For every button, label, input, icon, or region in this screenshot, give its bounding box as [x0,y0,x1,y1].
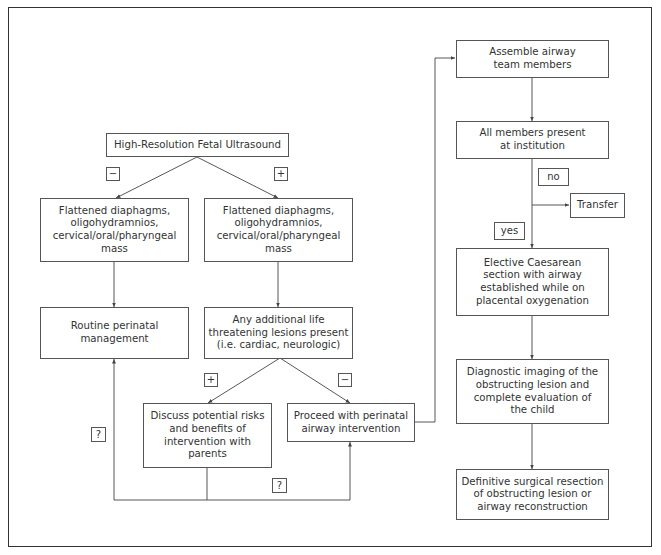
definitive-surgery-box: Definitive surgical resection of obstruc… [456,469,609,520]
additional-lesions-box: Any additional life threatening lesions … [204,307,353,359]
transfer-box: Transfer [570,193,625,218]
ultrasound-box: High-Resolution Fetal Ultrasound [106,133,289,157]
proceed-intervention-box: Proceed with perinatal airway interventi… [287,403,415,442]
routine-management-box: Routine perinatal management [40,307,189,359]
question-label: ? [91,427,106,442]
negative-label: − [106,167,120,181]
positive-label: + [274,167,288,181]
no-label: no [538,168,569,186]
findings-positive-box: Flattened diaphagms, oligohydramnios, ce… [204,198,353,262]
diagnostic-imaging-box: Diagnostic imaging of the obstructing le… [456,359,609,424]
question-label: ? [272,478,287,493]
negative-label: − [338,373,352,387]
assemble-team-box: Assemble airway team members [456,40,609,78]
caesarean-box: Elective Caesarean section with airway e… [456,248,609,316]
findings-negative-box: Flattened diaphagms, oligohydramnios, ce… [40,198,189,262]
yes-label: yes [494,222,525,240]
discuss-risks-box: Discuss potential risks and benefits of … [143,403,272,468]
all-present-box: All members present at institution [456,121,609,159]
positive-label: + [204,373,218,387]
